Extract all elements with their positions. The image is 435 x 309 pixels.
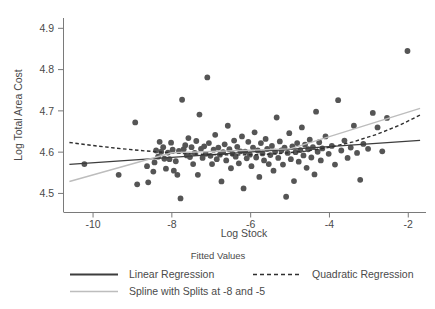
legend-label-quadratic-regression: Quadratic Regression [312, 268, 414, 280]
scatter-point [219, 179, 225, 185]
scatter-point [187, 154, 193, 160]
scatter-point [116, 172, 122, 178]
scatter-point [345, 155, 351, 161]
scatter-point [163, 166, 169, 172]
scatter-point [186, 135, 192, 141]
fit-line-spline-with-splits-at-8-and-5 [69, 108, 420, 181]
scatter-point [168, 140, 174, 146]
scatter-point [288, 156, 294, 162]
x-tick-label: -4 [325, 218, 334, 230]
scatter-point [258, 140, 264, 146]
scatter-point [338, 148, 344, 154]
legend-label-linear-regression: Linear Regression [129, 268, 214, 280]
scatter-point [173, 158, 179, 164]
scatter-point [277, 139, 283, 145]
scatter-point [161, 156, 167, 162]
scatter-point [236, 160, 242, 166]
scatter-point [296, 159, 302, 165]
scatter-point [266, 161, 272, 167]
scatter-point [301, 153, 307, 159]
scatter-point [201, 143, 207, 149]
y-axis-title: Log Total Area Cost [12, 69, 24, 161]
scatter-point [299, 124, 305, 130]
chart-canvas: 4.54.64.74.84.9 -10-8-6-4-2 Log Total Ar… [0, 0, 435, 309]
scatter-point [291, 178, 297, 184]
scatter-point [193, 138, 199, 144]
scatter-point [222, 141, 228, 147]
scatter-point [228, 165, 234, 171]
scatter-point [145, 179, 151, 185]
scatter-point [308, 155, 314, 161]
scatter-chart-figure: 4.54.64.74.84.9 -10-8-6-4-2 Log Total Ar… [0, 0, 435, 309]
scatter-point [170, 147, 176, 153]
scatter-point [195, 172, 201, 178]
scatter-point [223, 158, 229, 164]
scatter-point [271, 168, 277, 174]
scatter-point [241, 186, 247, 192]
scatter-point [267, 152, 273, 158]
scatter-point [275, 155, 281, 161]
scatter-point [190, 161, 196, 167]
legend-item-spline[interactable]: Spline with Splits at -8 and -5 [70, 285, 265, 297]
scatter-point [335, 97, 341, 103]
legend-item-linear-regression[interactable]: Linear Regression [70, 268, 214, 280]
scatter-point [215, 145, 221, 151]
x-tick-label: -8 [167, 218, 176, 230]
scatter-point [239, 134, 245, 140]
scatter-point [144, 163, 150, 169]
x-tick-label: -10 [85, 218, 100, 230]
y-tick-label: 4.8 [39, 63, 54, 75]
scatter-point [249, 163, 255, 169]
scatter-point [326, 151, 332, 157]
scatter-point [150, 169, 156, 175]
legend-item-quadratic-regression[interactable]: Quadratic Regression [253, 268, 414, 280]
x-tick-label: -2 [404, 218, 413, 230]
scatter-point [370, 110, 376, 116]
scatter-point [379, 148, 385, 154]
scatter-point [342, 138, 348, 144]
scatter-point [245, 139, 251, 145]
scatter-point [212, 132, 218, 138]
scatter-point [225, 123, 231, 129]
scatter-point [253, 155, 259, 161]
scatter-point [153, 148, 159, 154]
scatter-point [204, 75, 210, 81]
scatter-point [182, 142, 188, 148]
scatter-point [263, 136, 269, 142]
scatter-point [312, 172, 318, 178]
scatter-point [280, 162, 286, 168]
legend-label-spline: Spline with Splits at -8 and -5 [129, 285, 265, 297]
y-axis-ticks: 4.54.64.74.84.9 [39, 22, 63, 199]
scatter-point [178, 195, 184, 201]
y-tick-label: 4.5 [39, 187, 54, 199]
scatter-point [354, 150, 360, 156]
scatter-points-layer [81, 48, 410, 201]
scatter-point [286, 130, 292, 136]
scatter-point [269, 143, 275, 149]
scatter-point [252, 129, 258, 135]
scatter-point [189, 144, 195, 150]
scatter-point [261, 158, 267, 164]
scatter-point [375, 124, 381, 130]
scatter-point [365, 146, 371, 152]
scatter-point [157, 139, 163, 145]
fitted-lines-layer [69, 108, 420, 181]
y-tick-label: 4.7 [39, 105, 54, 117]
scatter-point [294, 140, 300, 146]
scatter-point [357, 177, 363, 183]
scatter-point [134, 181, 140, 187]
scatter-point [197, 112, 203, 118]
scatter-point [283, 194, 289, 200]
scatter-point [405, 48, 411, 54]
scatter-point [132, 120, 138, 126]
scatter-point [206, 140, 212, 146]
scatter-point [179, 97, 185, 103]
y-tick-label: 4.6 [39, 146, 54, 158]
chart-legend: Fitted Values Linear Regression Quadrati… [70, 250, 414, 297]
legend-title: Fitted Values [191, 250, 246, 261]
scatter-point [318, 158, 324, 164]
scatter-point [209, 161, 215, 167]
scatter-point [256, 174, 262, 180]
scatter-point [160, 144, 166, 150]
scatter-point [274, 115, 280, 121]
